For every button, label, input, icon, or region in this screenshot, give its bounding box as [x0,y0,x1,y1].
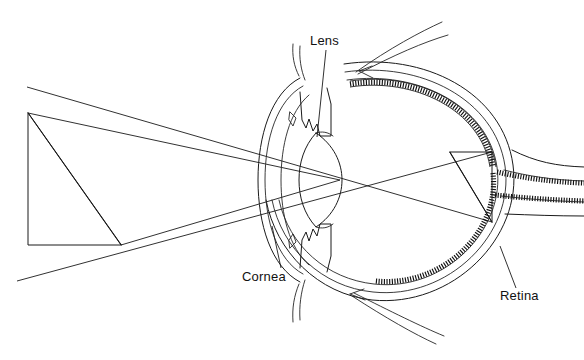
label-retina: Retina [500,288,539,303]
eye-diagram-figure: Lens Cornea Retina [0,0,584,360]
label-cornea: Cornea [242,269,286,284]
canvas-background [0,0,584,360]
eye-diagram-canvas: Lens Cornea Retina [0,0,584,360]
label-lens: Lens [310,33,339,48]
